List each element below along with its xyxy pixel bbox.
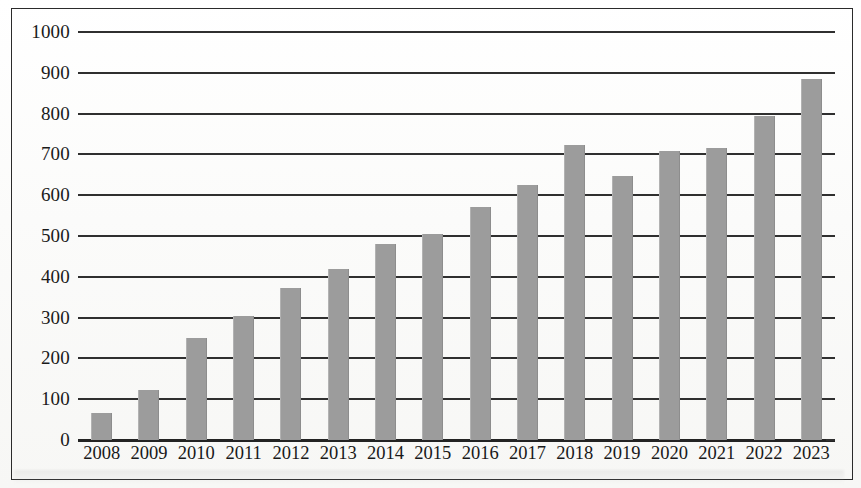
bar-2009 [138, 390, 159, 440]
bar-2012 [280, 288, 301, 440]
y-axis-label-900: 900 [8, 63, 70, 82]
bar-chart: 01002003004005006007008009001000 2008200… [0, 0, 861, 488]
y-axis-label-0: 0 [8, 430, 70, 449]
x-axis-tick-labels: 2008200920102011201220132014201520162017… [78, 444, 835, 474]
y-tick-mark-700 [826, 153, 835, 155]
y-axis-label-800: 800 [8, 104, 70, 123]
bar-2010 [186, 338, 207, 440]
bar-2011 [233, 316, 254, 440]
bar-2017 [517, 185, 538, 440]
bar-2018 [564, 145, 585, 440]
y-tick-mark-400 [826, 276, 835, 278]
plot-area [78, 32, 835, 440]
y-tick-mark-200 [826, 357, 835, 359]
y-tick-mark-0 [826, 439, 835, 441]
bar-2013 [328, 269, 349, 440]
bar-2023 [801, 79, 822, 440]
y-tick-mark-300 [826, 317, 835, 319]
y-tick-mark-500 [826, 235, 835, 237]
bar-2015 [422, 234, 443, 440]
bar-2020 [659, 151, 680, 440]
gridline-900 [78, 72, 835, 74]
bar-2021 [706, 148, 727, 440]
y-axis-label-500: 500 [8, 226, 70, 245]
y-axis-label-200: 200 [8, 348, 70, 367]
y-axis-label-300: 300 [8, 308, 70, 327]
y-axis-tick-labels: 01002003004005006007008009001000 [0, 32, 70, 440]
y-axis-label-1000: 1000 [8, 22, 70, 41]
y-axis-label-400: 400 [8, 267, 70, 286]
x-axis-label-2023: 2023 [783, 444, 839, 463]
gridline-1000 [78, 31, 835, 33]
y-axis-label-100: 100 [8, 389, 70, 408]
y-tick-mark-900 [826, 72, 835, 74]
bar-2008 [91, 413, 112, 440]
y-axis-label-700: 700 [8, 144, 70, 163]
y-tick-mark-600 [826, 194, 835, 196]
gridline-800 [78, 113, 835, 115]
y-tick-mark-100 [826, 398, 835, 400]
bar-2019 [612, 176, 633, 440]
bar-2022 [754, 116, 775, 440]
y-tick-mark-1000 [826, 31, 835, 33]
y-axis-label-600: 600 [8, 185, 70, 204]
bar-2014 [375, 244, 396, 440]
y-tick-mark-800 [826, 113, 835, 115]
bar-2016 [470, 207, 491, 440]
